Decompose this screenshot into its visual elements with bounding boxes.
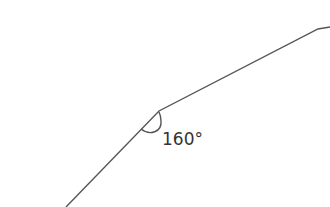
angle-rays (66, 27, 330, 207)
angle-diagram: 160° (0, 0, 330, 207)
angle-label: 160° (162, 129, 203, 149)
angle-figure (0, 0, 330, 207)
angle-arc (141, 112, 161, 132)
